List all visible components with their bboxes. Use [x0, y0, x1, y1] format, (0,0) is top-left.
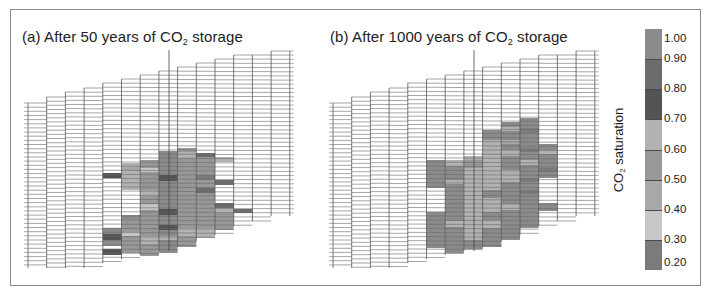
saturation-cell: [159, 175, 178, 181]
saturation-cell: [159, 236, 178, 240]
colorbar-tick-label: 0.80: [664, 82, 686, 94]
saturation-cell: [215, 180, 234, 185]
colorbar-band: [645, 29, 662, 60]
saturation-cell: [427, 212, 446, 248]
saturation-cell: [501, 170, 520, 182]
saturation-cell: [103, 173, 122, 178]
saturation-cell: [215, 157, 234, 162]
saturation-cell: [178, 152, 197, 158]
saturation-cell: [445, 160, 464, 253]
colorbar-tick-label: 0.20: [664, 256, 686, 268]
saturation-cell: [520, 128, 539, 133]
colorbar-tick-label: 0.50: [664, 173, 686, 185]
colorbar-tick-label: 0.40: [664, 203, 686, 215]
colorbar-band: [645, 119, 662, 150]
colorbar-label-text: CO: [611, 173, 626, 193]
colorbar-band: [645, 210, 662, 241]
colorbar-band: [645, 150, 662, 181]
saturation-cell: [520, 178, 539, 182]
colorbar: [645, 29, 662, 270]
colorbar-band: [645, 180, 662, 211]
colorbar-label-suffix: saturation: [611, 108, 626, 169]
grid-panel-a: [24, 50, 294, 268]
saturation-cell: [445, 180, 464, 184]
saturation-cell: [483, 212, 502, 220]
saturation-cell: [483, 130, 502, 140]
saturation-grids: [0, 0, 713, 294]
colorbar-tick-label: 0.70: [664, 112, 686, 124]
saturation-cell: [501, 150, 520, 156]
saturation-cell: [215, 203, 234, 208]
saturation-cell: [103, 249, 122, 255]
saturation-cell: [140, 168, 159, 172]
colorbar-tick-label: 0.90: [664, 52, 686, 64]
saturation-cell: [445, 221, 464, 227]
saturation-cell: [159, 225, 178, 230]
saturation-cell: [140, 204, 159, 210]
saturation-cell: [427, 160, 446, 188]
saturation-cell: [103, 234, 122, 240]
saturation-cell: [520, 118, 539, 228]
colorbar-band: [645, 89, 662, 120]
saturation-cell: [122, 215, 141, 219]
colorbar-band: [645, 240, 662, 271]
saturation-cell: [501, 204, 520, 210]
colorbar-band: [645, 59, 662, 90]
saturation-cell: [445, 160, 464, 166]
saturation-cell: [196, 188, 215, 193]
saturation-cell: [103, 228, 122, 234]
saturation-cell: [464, 156, 483, 249]
saturation-cell: [501, 127, 520, 131]
colorbar-tick-label: 1.00: [664, 32, 686, 44]
colorbar-tick-label: 0.30: [664, 233, 686, 245]
colorbar-tick-label: 0.60: [664, 143, 686, 155]
saturation-cell: [539, 144, 558, 178]
saturation-cell: [215, 208, 234, 213]
colorbar-label-subscript: 2: [618, 168, 627, 172]
saturation-cell: [196, 153, 215, 157]
grid-panel-b: [329, 50, 599, 268]
